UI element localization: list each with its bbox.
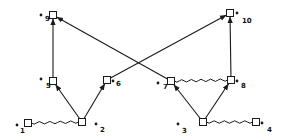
node-label-6: 6 [116,81,121,88]
edge-arrow-2-to-5 [55,85,79,119]
node-label-8: 8 [241,83,246,90]
edge-arrow-7-to-9 [57,17,168,79]
edge-wavy-3-4 [207,121,253,123]
node-dot-icon-7 [157,82,160,85]
edge-arrow-2-to-6 [84,84,105,119]
edge-wavy-7-8 [175,79,228,82]
node-dot-icon-5 [40,78,43,81]
edges-layer [32,15,253,124]
node-dot-icon-3 [177,123,180,126]
node-box-3 [200,119,207,126]
node-box-1 [25,120,32,127]
edge-arrow-8-to-10 [230,17,231,77]
node-label-9: 9 [45,16,50,23]
node-box-9 [50,12,57,19]
node-dot-icon-2 [95,123,98,126]
node-box-8 [228,77,235,84]
node-dot-icon-4 [261,122,264,125]
edge-wavy-1-2 [32,121,79,124]
node-label-4: 4 [267,127,272,134]
node-box-6 [104,77,111,84]
node-box-10 [227,10,234,17]
node-box-2 [79,119,86,126]
node-dot-icon-10 [236,12,239,15]
node-label-7: 7 [163,84,168,91]
node-dot-icon-6 [112,80,115,83]
node-label-2: 2 [100,127,105,134]
node-box-7 [168,78,175,85]
node-dot-icon-8 [236,80,239,83]
node-label-1: 1 [20,128,25,135]
node-label-10: 10 [242,18,252,25]
node-dot-icon-1 [16,124,19,127]
edge-arrow-3-to-7 [174,85,201,119]
edge-arrow-6-to-10 [111,15,227,78]
node-box-4 [253,119,260,126]
node-dot-icon-9 [40,14,43,17]
node-label-5: 5 [46,83,51,90]
edge-arrow-3-to-8 [205,84,228,119]
node-label-3: 3 [182,128,187,135]
